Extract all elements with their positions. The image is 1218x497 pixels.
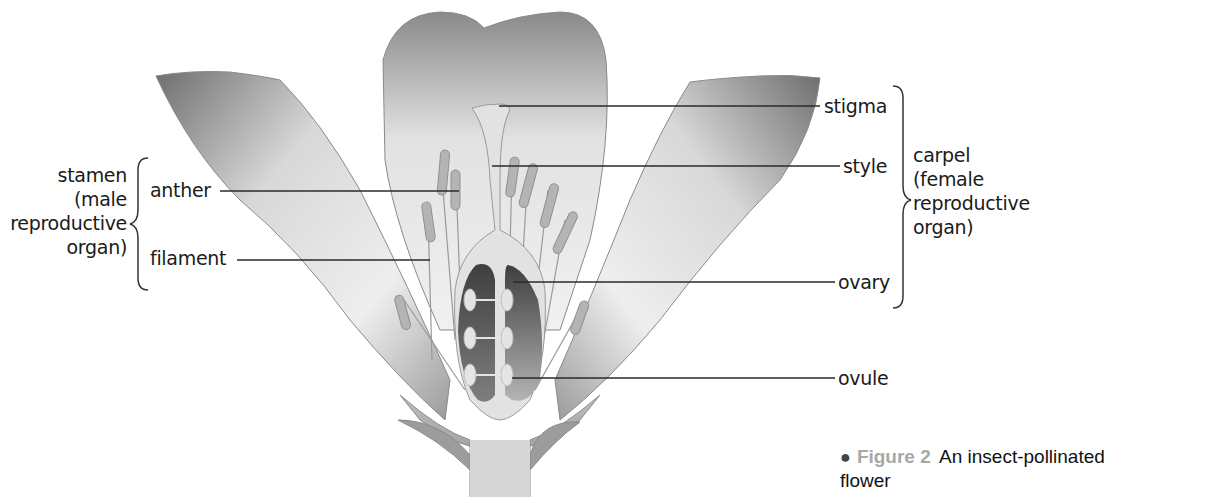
label-anther: anther	[150, 178, 211, 202]
caption-line-1: An insect-pollinated	[939, 446, 1105, 467]
label-stigma: stigma	[824, 94, 887, 118]
figure-number: Figure 2	[857, 446, 931, 467]
brace-stamen	[130, 158, 148, 290]
caption-line-2: flower	[840, 470, 891, 491]
bullet-icon: ●	[840, 447, 851, 467]
stem	[470, 440, 530, 497]
carpel-group-label: carpel (female reproductive organ)	[913, 143, 1030, 239]
carpel-line-2: (female	[913, 167, 1030, 191]
stamen-line-2: (male	[10, 187, 127, 211]
label-style: style	[843, 154, 887, 178]
label-filament: filament	[150, 246, 226, 270]
sepal-left	[398, 420, 470, 470]
stamen-line-3: reproductive	[10, 211, 127, 235]
sepal-right	[530, 422, 580, 470]
brace-carpel	[893, 86, 911, 308]
figure-caption: ●Figure 2 An insect-pollinated flower	[840, 445, 1218, 493]
carpel-line-4: organ)	[913, 215, 1030, 239]
carpel-line-1: carpel	[913, 143, 1030, 167]
label-ovule: ovule	[838, 366, 888, 390]
label-ovary: ovary	[838, 270, 890, 294]
stamen-line-4: organ)	[10, 235, 127, 259]
stamen-group-label: stamen (male reproductive organ)	[10, 163, 127, 259]
stamen-line-1: stamen	[10, 163, 127, 187]
carpel-line-3: reproductive	[913, 191, 1030, 215]
